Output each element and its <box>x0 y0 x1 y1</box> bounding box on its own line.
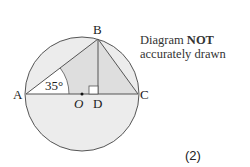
label-d: D <box>93 96 102 111</box>
label-o: O <box>74 96 84 111</box>
angle-label: 35° <box>45 78 63 93</box>
note-line2: accurately drawn <box>140 47 226 61</box>
label-b: B <box>93 22 102 37</box>
marks-label: (2) <box>185 148 201 163</box>
note-bold: NOT <box>187 33 214 47</box>
label-a: A <box>13 87 23 102</box>
note-prefix: Diagram <box>140 33 187 47</box>
diagram-note: Diagram NOT accurately drawn <box>140 33 226 61</box>
label-c: C <box>140 87 149 102</box>
right-angle-mark <box>89 86 98 94</box>
circle-diagram: B A C D O 35° <box>0 0 250 167</box>
